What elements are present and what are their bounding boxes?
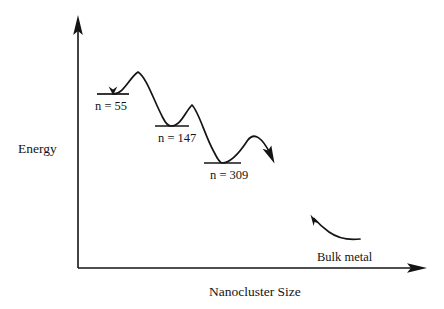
level-label-n309: n = 309 [210, 169, 248, 182]
level-label-n55: n = 55 [95, 100, 127, 113]
level-label-n147: n = 147 [158, 132, 196, 145]
figure-canvas [0, 0, 444, 309]
y-axis-label: Energy [18, 142, 57, 156]
landscape-end-arrow-icon [263, 146, 275, 164]
bulk-metal-arrow-curve [314, 219, 360, 240]
energy-landscape-curve [113, 72, 271, 163]
x-axis-label: Nanocluster Size [209, 285, 301, 299]
bulk-metal-arrow-icon [311, 215, 319, 227]
bulk-metal-label: Bulk metal [317, 251, 372, 264]
energy-vs-nanocluster-size-figure: Energy Nanocluster Size n = 55 n = 147 n… [0, 0, 444, 309]
